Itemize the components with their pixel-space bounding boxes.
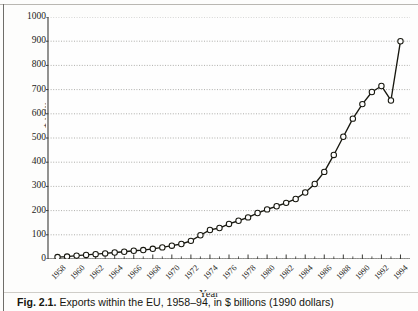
figure-caption-label: Fig. 2.1. bbox=[17, 296, 56, 308]
y-axis-tick-label: 1000 bbox=[12, 12, 46, 22]
data-point-marker bbox=[226, 221, 231, 226]
figure-container: $ billions 01002003004005006007008009001… bbox=[0, 6, 418, 311]
data-point-marker bbox=[207, 227, 212, 232]
y-axis-tick-label: 400 bbox=[12, 157, 46, 167]
data-point-marker bbox=[112, 250, 117, 255]
y-axis-tick-label: 300 bbox=[12, 181, 46, 191]
y-axis-tick-label: 0 bbox=[12, 254, 46, 264]
data-point-marker bbox=[83, 252, 88, 257]
y-axis-tick-label: 700 bbox=[12, 85, 46, 95]
data-point-marker bbox=[264, 207, 269, 212]
data-point-marker bbox=[245, 215, 250, 220]
data-point-marker bbox=[55, 254, 60, 259]
line-chart-svg bbox=[46, 17, 410, 259]
data-point-marker bbox=[283, 200, 288, 205]
data-point-marker bbox=[179, 241, 184, 246]
data-point-marker bbox=[150, 246, 155, 251]
y-axis-tick-label: 600 bbox=[12, 109, 46, 119]
data-point-marker bbox=[217, 225, 222, 230]
y-axis-tick-label: 100 bbox=[12, 230, 46, 240]
data-point-marker bbox=[322, 169, 327, 174]
data-point-marker bbox=[169, 243, 174, 248]
page-frame-top-rule bbox=[0, 4, 418, 5]
figure-caption: Fig. 2.1. Exports within the EU, 1958–94… bbox=[17, 295, 417, 309]
y-axis-tick-label: 500 bbox=[12, 133, 46, 143]
data-point-marker bbox=[369, 89, 374, 94]
data-point-marker bbox=[160, 245, 165, 250]
caption-divider bbox=[4, 292, 418, 293]
data-point-marker bbox=[350, 116, 355, 121]
data-point-marker bbox=[131, 248, 136, 253]
data-point-marker bbox=[293, 196, 298, 201]
data-point-marker bbox=[102, 251, 107, 256]
data-point-marker bbox=[141, 247, 146, 252]
data-point-marker bbox=[188, 238, 193, 243]
data-point-marker bbox=[303, 190, 308, 195]
data-point-marker bbox=[341, 134, 346, 139]
data-point-marker bbox=[388, 98, 393, 103]
data-point-marker bbox=[93, 251, 98, 256]
figure-caption-text: Exports within the EU, 1958–94, in $ bil… bbox=[59, 296, 333, 308]
figure-page: $ billions 01002003004005006007008009001… bbox=[0, 0, 418, 311]
data-point-marker bbox=[360, 101, 365, 106]
y-axis-tick-label: 800 bbox=[12, 60, 46, 70]
data-point-marker bbox=[398, 39, 403, 44]
y-axis-tick-labels: 01002003004005006007008009001000 bbox=[6, 17, 46, 259]
data-point-marker bbox=[74, 253, 79, 258]
data-point-marker bbox=[379, 83, 384, 88]
data-point-marker bbox=[122, 249, 127, 254]
data-point-marker bbox=[198, 233, 203, 238]
data-point-marker bbox=[312, 181, 317, 186]
plot-area bbox=[46, 17, 410, 259]
data-point-marker bbox=[236, 218, 241, 223]
data-point-marker bbox=[274, 204, 279, 209]
data-point-marker bbox=[64, 254, 69, 259]
data-point-marker bbox=[331, 152, 336, 157]
data-point-marker bbox=[255, 210, 260, 215]
y-axis-tick-label: 900 bbox=[12, 36, 46, 46]
y-axis-tick-label: 200 bbox=[12, 206, 46, 216]
